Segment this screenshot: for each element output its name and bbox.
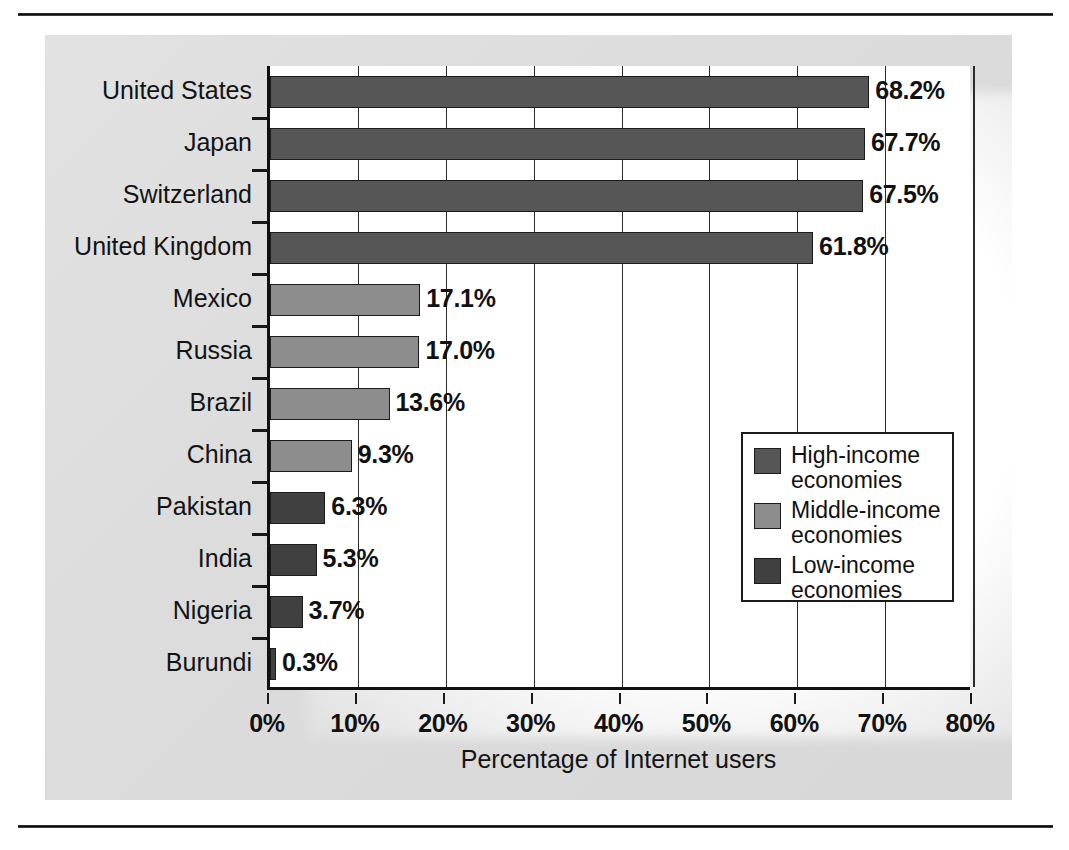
bar-row xyxy=(270,128,970,160)
bar-united-states xyxy=(270,76,869,108)
legend-label-middle-income: Middle-incomeeconomies xyxy=(791,498,941,548)
category-label-united-kingdom: United Kingdom xyxy=(74,232,252,261)
gridline-80 xyxy=(973,66,975,687)
y-tick xyxy=(252,585,268,588)
y-tick xyxy=(252,117,268,120)
x-tick-label-10%: 10% xyxy=(330,709,379,738)
y-tick xyxy=(252,533,268,536)
bar-value-china: 9.3% xyxy=(358,440,414,469)
y-tick xyxy=(252,481,268,484)
x-tick-label-30%: 30% xyxy=(506,709,555,738)
category-label-india: India xyxy=(198,544,252,573)
x-tick-10% xyxy=(355,693,357,704)
bar-united-kingdom xyxy=(270,232,813,264)
bar-value-pakistan: 6.3% xyxy=(331,492,387,521)
legend-label-line1: Middle-income xyxy=(791,498,941,523)
bar-brazil xyxy=(270,388,390,420)
legend-label-low-income: Low-incomeeconomies xyxy=(791,553,915,603)
category-label-switzerland: Switzerland xyxy=(123,180,252,209)
x-tick-20% xyxy=(443,693,445,704)
x-tick-30% xyxy=(531,693,533,704)
category-label-japan: Japan xyxy=(184,128,252,157)
bar-row xyxy=(270,76,970,108)
category-label-mexico: Mexico xyxy=(173,284,252,313)
bar-row xyxy=(270,180,970,212)
y-tick xyxy=(252,325,268,328)
category-axis-labels: United StatesJapanSwitzerlandUnited King… xyxy=(45,66,252,690)
bar-pakistan xyxy=(270,492,325,524)
bar-russia xyxy=(270,336,419,368)
legend-item-low-income: Low-incomeeconomies xyxy=(754,553,952,603)
x-tick-label-50%: 50% xyxy=(682,709,731,738)
y-tick xyxy=(252,377,268,380)
legend-item-middle-income: Middle-incomeeconomies xyxy=(754,498,952,548)
legend-swatch-high-income xyxy=(754,448,781,474)
category-label-burundi: Burundi xyxy=(166,648,252,677)
y-tick xyxy=(252,169,268,172)
category-label-nigeria: Nigeria xyxy=(173,596,252,625)
category-label-brazil: Brazil xyxy=(189,388,252,417)
legend-swatch-low-income xyxy=(754,558,781,584)
category-label-pakistan: Pakistan xyxy=(156,492,252,521)
bar-value-burundi: 0.3% xyxy=(282,648,338,677)
bar-row xyxy=(270,284,970,316)
bar-value-switzerland: 67.5% xyxy=(869,180,938,209)
bar-value-mexico: 17.1% xyxy=(426,284,495,313)
bar-burundi xyxy=(270,648,276,680)
x-tick-label-60%: 60% xyxy=(770,709,819,738)
y-tick xyxy=(252,637,268,640)
bottom-horizontal-rule xyxy=(18,825,1053,828)
bar-value-united-kingdom: 61.8% xyxy=(819,232,888,261)
bar-value-united-states: 68.2% xyxy=(875,76,944,105)
bar-japan xyxy=(270,128,865,160)
legend-label-line1: High-income xyxy=(791,443,920,468)
bar-switzerland xyxy=(270,180,863,212)
legend-label-line1: Low-income xyxy=(791,553,915,578)
y-tick xyxy=(252,221,268,224)
bar-value-russia: 17.0% xyxy=(425,336,494,365)
x-tick-80% xyxy=(970,693,972,704)
bar-row xyxy=(270,388,970,420)
y-tick xyxy=(252,429,268,432)
bar-india xyxy=(270,544,317,576)
bar-value-brazil: 13.6% xyxy=(396,388,465,417)
bar-china xyxy=(270,440,352,472)
x-tick-40% xyxy=(619,693,621,704)
x-tick-label-40%: 40% xyxy=(594,709,643,738)
y-tick xyxy=(252,273,268,276)
category-label-china: China xyxy=(187,440,252,469)
x-tick-label-70%: 70% xyxy=(858,709,907,738)
x-axis-title: Percentage of Internet users xyxy=(267,745,970,774)
legend-swatch-middle-income xyxy=(754,503,781,529)
bar-value-nigeria: 3.7% xyxy=(309,596,365,625)
category-label-russia: Russia xyxy=(176,336,252,365)
bar-mexico xyxy=(270,284,420,316)
bar-row xyxy=(270,336,970,368)
category-label-united-states: United States xyxy=(102,76,252,105)
x-tick-50% xyxy=(706,693,708,704)
legend-label-line2: economies xyxy=(791,523,941,548)
bar-value-india: 5.3% xyxy=(323,544,379,573)
x-tick-label-0%: 0% xyxy=(249,709,285,738)
x-tick-label-20%: 20% xyxy=(418,709,467,738)
x-tick-label-80%: 80% xyxy=(945,709,994,738)
x-tick-0% xyxy=(267,693,269,704)
bar-value-japan: 67.7% xyxy=(871,128,940,157)
bar-row xyxy=(270,648,970,680)
legend-label-high-income: High-incomeeconomies xyxy=(791,443,920,493)
x-tick-60% xyxy=(794,693,796,704)
chart-legend: High-incomeeconomiesMiddle-incomeeconomi… xyxy=(741,432,954,602)
bar-nigeria xyxy=(270,596,303,628)
x-tick-70% xyxy=(882,693,884,704)
legend-item-high-income: High-incomeeconomies xyxy=(754,443,952,493)
legend-label-line2: economies xyxy=(791,468,920,493)
legend-label-line2: economies xyxy=(791,578,915,603)
top-horizontal-rule xyxy=(18,13,1053,16)
